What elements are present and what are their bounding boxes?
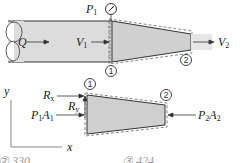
label-reaction-y: Ry (68, 100, 79, 114)
label-sub: 2 (225, 41, 229, 50)
nozzle-diagram (0, 0, 242, 163)
label-pressure-force-in: P1A1 (31, 109, 54, 123)
label-base: A (42, 108, 49, 122)
section-2-marker-bottom: 2 (160, 89, 172, 101)
label-axis-y: y (4, 85, 9, 97)
section-1-marker: 1 (105, 65, 117, 77)
label-sub: 2 (217, 114, 221, 123)
section-2-marker: 2 (180, 54, 192, 66)
label-flow-rate: Q (18, 36, 27, 48)
label-sub: y (75, 105, 79, 114)
answer-choice-3: ③ 424 (122, 154, 154, 163)
label-sub: x (50, 94, 54, 103)
label-reaction-x: Rx (43, 89, 54, 103)
label-pressure-gauge: P1 (86, 3, 97, 17)
answer-choice-2: ② 330 (0, 154, 30, 163)
label-velocity-in: V1 (76, 36, 87, 50)
label-sub: 1 (50, 114, 54, 123)
label-velocity-out: V2 (218, 36, 229, 50)
label-sub: 1 (93, 8, 97, 17)
label-base: A (209, 108, 216, 122)
label-pressure-force-out: P2A2 (198, 109, 221, 123)
label-sub: 1 (83, 41, 87, 50)
label-axis-x: x (67, 141, 72, 153)
nozzle-body (112, 21, 191, 62)
section-1-marker-bottom: 1 (84, 78, 96, 90)
pressure-gauge-icon (106, 4, 117, 22)
